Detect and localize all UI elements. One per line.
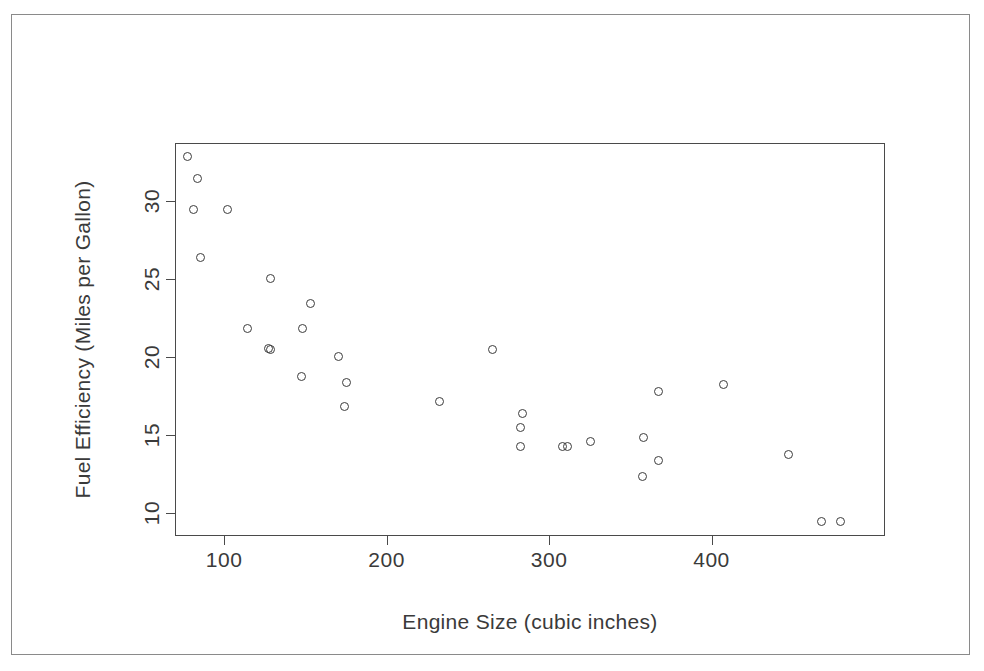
data-point xyxy=(654,456,663,465)
data-point xyxy=(516,442,525,451)
data-point xyxy=(223,205,232,214)
y-axis-tick xyxy=(166,201,175,202)
x-axis-label: Engine Size (cubic inches) xyxy=(175,610,885,634)
y-axis-tick-label-text: 25 xyxy=(138,265,166,293)
data-point xyxy=(784,450,793,459)
x-axis-tick xyxy=(387,536,388,545)
data-point xyxy=(306,299,315,308)
data-point xyxy=(563,442,572,451)
x-axis-tick-label: 200 xyxy=(368,548,405,572)
data-point xyxy=(639,433,648,442)
x-axis-tick xyxy=(549,536,550,545)
data-point xyxy=(638,472,647,481)
y-axis-tick-label: 10 xyxy=(138,499,166,527)
x-axis-tick-label: 300 xyxy=(531,548,568,572)
data-point xyxy=(340,402,349,411)
data-point xyxy=(243,324,252,333)
data-point xyxy=(719,380,728,389)
data-point xyxy=(435,397,444,406)
x-axis-tick-label: 400 xyxy=(693,548,730,572)
data-point xyxy=(183,152,192,161)
y-axis-tick-label: 30 xyxy=(138,187,166,215)
data-point xyxy=(836,517,845,526)
data-point xyxy=(266,345,275,354)
data-point xyxy=(342,378,351,387)
y-axis-tick xyxy=(166,435,175,436)
data-point xyxy=(586,437,595,446)
data-point-layer xyxy=(176,144,884,535)
data-point xyxy=(518,409,527,418)
y-axis-tick xyxy=(166,279,175,280)
y-axis-tick-label: 15 xyxy=(138,421,166,449)
y-axis-label: Fuel Efficiency (Miles per Gallon) xyxy=(68,143,98,536)
y-axis-tick-label: 25 xyxy=(138,265,166,293)
x-axis-tick xyxy=(224,536,225,545)
data-point xyxy=(817,517,826,526)
data-point xyxy=(654,387,663,396)
data-point xyxy=(297,372,306,381)
figure-outer-frame: 1015202530 100200300400 Engine Size (cub… xyxy=(11,14,970,655)
data-point xyxy=(193,174,202,183)
data-point xyxy=(516,423,525,432)
y-axis-tick-label-text: 15 xyxy=(138,421,166,449)
data-point xyxy=(298,324,307,333)
plot-panel xyxy=(175,143,885,536)
y-axis-tick-label-text: 30 xyxy=(138,187,166,215)
data-point xyxy=(488,345,497,354)
x-axis-tick-label: 100 xyxy=(206,548,243,572)
data-point xyxy=(189,205,198,214)
y-axis-tick xyxy=(166,513,175,514)
y-axis-tick-label: 20 xyxy=(138,343,166,371)
x-axis-tick xyxy=(712,536,713,545)
y-axis-tick-label-text: 10 xyxy=(138,499,166,527)
data-point xyxy=(334,352,343,361)
data-point xyxy=(196,253,205,262)
data-point xyxy=(266,274,275,283)
scatter-plot-screenshot: 1015202530 100200300400 Engine Size (cub… xyxy=(0,0,984,671)
y-axis-tick xyxy=(166,357,175,358)
y-axis-tick-label-text: 20 xyxy=(138,343,166,371)
